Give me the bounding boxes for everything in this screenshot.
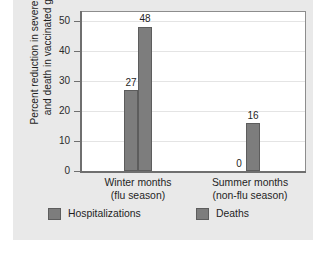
gridline-50: [81, 21, 305, 22]
y-tick-mark-50: [74, 21, 81, 22]
legend-item-deaths: Deaths: [196, 207, 249, 221]
gridline-40: [81, 51, 305, 52]
legend-item-hospitalizations: Hospitalizations: [48, 207, 141, 221]
legend-label-hospitalizations: Hospitalizations: [68, 208, 141, 220]
y-tick-mark-40: [74, 51, 81, 52]
legend-label-deaths: Deaths: [216, 208, 249, 220]
legend-swatch-hospitalizations: [48, 208, 61, 220]
bar-label-deaths-winter: 48: [131, 14, 159, 24]
y-tick-mark-30: [74, 81, 81, 82]
y-tick-mark-20: [74, 111, 81, 112]
x-category-label-summer: Summer months (non-flu season): [191, 177, 309, 202]
y-axis-line: [80, 11, 82, 173]
y-axis-title: Percent reduction in severe illness and …: [28, 0, 62, 127]
plot-area: [80, 11, 306, 173]
x-category-label-winter: Winter months (flu season): [83, 177, 193, 202]
legend-swatch-deaths: [196, 208, 209, 220]
x-category-label-summer-line1: Summer months: [191, 177, 309, 190]
bar-hospitalizations-winter: [124, 90, 138, 171]
chart-figure: 0 10 20 30 40 50 Percent reduction in se…: [13, 0, 313, 240]
chart-legend: Hospitalizations Deaths: [13, 207, 313, 223]
x-category-label-winter-line2: (flu season): [83, 190, 193, 203]
bar-deaths-winter: [138, 27, 152, 171]
gridline-30: [81, 81, 305, 82]
x-category-label-winter-line1: Winter months: [83, 177, 193, 190]
y-axis-title-line1: Percent reduction in severe illness: [28, 0, 41, 127]
gridline-10: [81, 141, 305, 142]
y-tick-mark-10: [74, 141, 81, 142]
y-tick-label-0: 0: [44, 166, 70, 176]
x-category-label-summer-line2: (non-flu season): [191, 190, 309, 203]
y-tick-label-10: 10: [44, 136, 70, 146]
x-axis-line: [80, 171, 306, 173]
gridline-20: [81, 111, 305, 112]
bar-deaths-summer: [246, 123, 260, 171]
y-tick-mark-0: [74, 171, 81, 172]
bar-label-deaths-summer: 16: [239, 111, 267, 121]
y-axis-title-line2: and death in vaccinated group: [41, 0, 54, 127]
